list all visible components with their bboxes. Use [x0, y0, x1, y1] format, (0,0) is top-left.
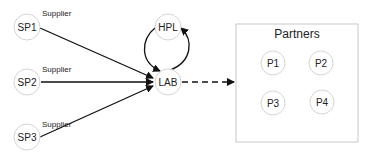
node-p3: P3 — [261, 91, 285, 115]
svg-text:SP1: SP1 — [18, 22, 37, 33]
svg-text:HPL: HPL — [158, 22, 178, 33]
partners-box — [236, 24, 358, 142]
svg-text:SP2: SP2 — [18, 77, 37, 88]
svg-text:P2: P2 — [315, 58, 328, 69]
node-lab: LAB — [155, 69, 181, 95]
supplier-label-sp3: Supplier — [42, 120, 72, 129]
partners-title: Partners — [274, 27, 319, 41]
svg-text:LAB: LAB — [159, 77, 178, 88]
node-p2: P2 — [309, 51, 333, 75]
node-p1: P1 — [261, 51, 285, 75]
supplier-label-sp1: Supplier — [42, 9, 72, 18]
node-sp3: SP3 — [14, 124, 40, 150]
node-sp1: SP1 — [14, 14, 40, 40]
node-hpl: HPL — [155, 14, 181, 40]
node-p4: P4 — [310, 90, 334, 114]
supply-chain-diagram: SP1 Supplier SP2 Supplier SP3 Supplier H… — [0, 0, 373, 155]
node-sp2: SP2 — [14, 69, 40, 95]
supplier-label-sp2: Supplier — [42, 65, 72, 74]
svg-text:P4: P4 — [316, 97, 329, 108]
svg-text:P3: P3 — [267, 98, 280, 109]
svg-text:SP3: SP3 — [18, 132, 37, 143]
svg-text:P1: P1 — [267, 58, 280, 69]
edge-sp3-lab — [40, 86, 153, 137]
